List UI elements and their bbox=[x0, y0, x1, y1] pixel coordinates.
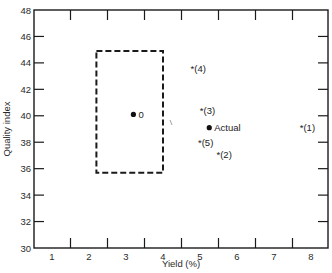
data-points: 0Actual*(1)*(2)*(3)*(4)*(5) bbox=[131, 63, 315, 160]
asterisk-point-label: *(4) bbox=[191, 63, 206, 74]
plot-frame bbox=[34, 10, 328, 248]
y-tick-label: 40 bbox=[20, 110, 31, 121]
point-label: Actual bbox=[214, 122, 240, 133]
x-tick-label: 6 bbox=[234, 251, 239, 262]
x-tick-label: 1 bbox=[49, 251, 54, 262]
y-tick-label: 46 bbox=[20, 31, 31, 42]
x-tick-label: 7 bbox=[271, 251, 276, 262]
dot-marker bbox=[131, 112, 136, 117]
target-region-box bbox=[96, 51, 163, 173]
y-tick-label: 38 bbox=[20, 137, 31, 148]
point-label: 0 bbox=[138, 109, 143, 120]
x-tick-label: 2 bbox=[86, 251, 91, 262]
y-axis-title: Quality index bbox=[1, 101, 12, 156]
asterisk-point-label: *(5) bbox=[198, 137, 213, 148]
plot-border bbox=[34, 10, 328, 248]
asterisk-point-label: *(3) bbox=[200, 105, 215, 116]
asterisk-point-label: *(2) bbox=[217, 149, 232, 160]
axis-ticks bbox=[34, 10, 328, 248]
stray-mark bbox=[170, 120, 172, 125]
scatter-chart: 1234567830323436384042444648 0Actual*(1)… bbox=[0, 0, 332, 273]
y-tick-label: 36 bbox=[20, 163, 31, 174]
y-tick-label: 42 bbox=[20, 84, 31, 95]
y-tick-label: 44 bbox=[20, 57, 31, 68]
y-tick-label: 34 bbox=[20, 190, 31, 201]
y-tick-label: 30 bbox=[20, 243, 31, 254]
x-axis-title: Yield (%) bbox=[162, 258, 200, 269]
x-tick-label: 3 bbox=[123, 251, 128, 262]
asterisk-point-label: *(1) bbox=[300, 122, 315, 133]
y-tick-label: 32 bbox=[20, 216, 31, 227]
x-tick-label: 8 bbox=[308, 251, 313, 262]
tick-labels: 1234567830323436384042444648 bbox=[20, 5, 313, 263]
y-tick-label: 48 bbox=[20, 5, 31, 16]
dot-marker bbox=[207, 125, 212, 130]
